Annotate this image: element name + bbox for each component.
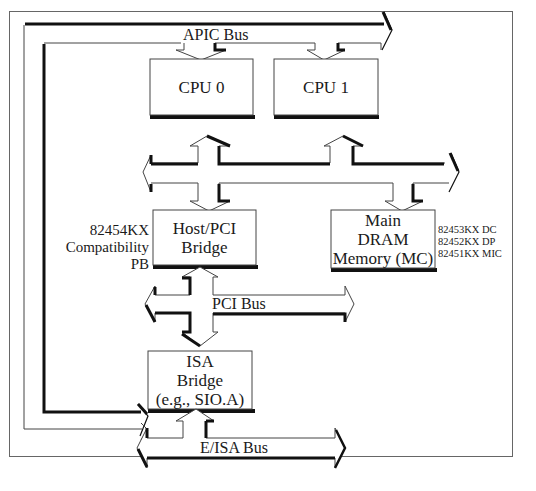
main-dram-box: Main DRAM Memory (MC) [331,210,435,268]
host-pci-bridge-line-2: Bridge [181,238,227,257]
isa-bridge-line-1: ISA [186,352,213,371]
apic-bus-label: APIC Bus [183,26,248,44]
cpu0-box: CPU 0 [150,59,253,115]
eisa-bus-label: E/ISA Bus [200,439,268,457]
host-bridge-part-line-2: Compatibility [66,239,149,256]
main-dram-line-2: DRAM [357,230,408,249]
host-pci-bridge-box: Host/PCI Bridge [153,210,256,265]
host-bridge-part-line-1: 82454KX [90,222,149,239]
host-bridge-part-line-3: PB [131,256,149,273]
main-dram-line-1: Main [365,211,401,230]
cpu1-label: CPU 1 [303,78,349,97]
cpu1-box: CPU 1 [274,59,378,115]
isa-bridge-box: ISA Bridge (e.g., SIO.A) [148,351,252,409]
cpu0-label: CPU 0 [179,78,225,97]
system-architecture-diagram: APIC Bus CPU 0 CPU 1 Host/PCI Bridge Mai… [0,0,536,491]
host-bridge-part-annotation: 82454KX Compatibility PB [66,222,149,273]
isa-bridge-line-3: (e.g., SIO.A) [156,390,244,409]
pci-bus-label: PCI Bus [212,295,266,313]
isa-bridge-line-2: Bridge [177,371,223,390]
host-bus-connector [143,136,459,211]
memory-part-dc: 82453KX DC [438,224,502,236]
memory-parts-annotation: 82453KX DC 82452KX DP 82451KX MIC [438,224,502,260]
main-dram-line-3: Memory (MC) [333,249,434,268]
memory-part-mic: 82451KX MIC [438,248,502,260]
host-pci-bridge-line-1: Host/PCI [173,219,236,238]
memory-part-dp: 82452KX DP [438,236,502,248]
